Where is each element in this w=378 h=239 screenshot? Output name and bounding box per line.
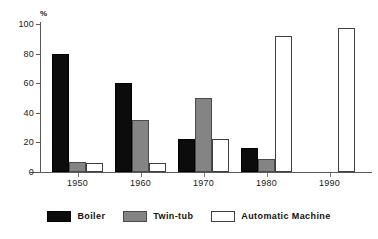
y-axis-unit-label: % xyxy=(40,9,47,18)
legend-label: Boiler xyxy=(77,211,105,221)
x-tick-label-1980: 1980 xyxy=(232,178,302,188)
y-tick-label: 60 xyxy=(4,79,34,88)
twin-tub-swatch xyxy=(123,211,147,222)
x-tick-mark xyxy=(330,173,331,177)
x-tick-mark xyxy=(141,173,142,177)
y-tick-label: 20 xyxy=(4,138,34,147)
bar-1970-boiler xyxy=(178,139,195,172)
x-tick-label-1970: 1970 xyxy=(169,178,239,188)
legend-label: Automatic Machine xyxy=(241,211,330,221)
bar-chart: % 020406080100 19501960197019801990 Boil… xyxy=(0,0,378,239)
y-tick-mark xyxy=(36,172,40,173)
y-tick-label: 100 xyxy=(4,20,34,29)
legend-item-boiler[interactable]: Boiler xyxy=(47,211,105,222)
plot-area xyxy=(40,24,370,172)
x-tick-label-1990: 1990 xyxy=(295,178,365,188)
bar-1970-automatic-machine xyxy=(212,139,229,172)
chart-legend: BoilerTwin-tubAutomatic Machine xyxy=(0,206,378,226)
x-tick-mark xyxy=(78,173,79,177)
x-tick-label-1950: 1950 xyxy=(43,178,113,188)
y-tick-label: 80 xyxy=(4,50,34,59)
x-tick-label-1960: 1960 xyxy=(106,178,176,188)
bar-1950-twin-tub xyxy=(69,162,86,172)
x-tick-mark xyxy=(204,173,205,177)
bar-1990-automatic-machine xyxy=(338,28,355,172)
boiler-swatch xyxy=(47,211,71,222)
bar-1960-boiler xyxy=(115,83,132,172)
bar-1950-boiler xyxy=(52,54,69,172)
legend-label: Twin-tub xyxy=(153,211,193,221)
bar-1960-twin-tub xyxy=(132,120,149,172)
x-tick-mark xyxy=(267,173,268,177)
legend-item-twin-tub[interactable]: Twin-tub xyxy=(123,211,193,222)
bar-1980-automatic-machine xyxy=(275,36,292,172)
bar-1960-automatic-machine xyxy=(149,163,166,172)
automatic-machine-swatch xyxy=(211,211,235,222)
bar-1980-twin-tub xyxy=(258,159,275,172)
y-tick-label: 40 xyxy=(4,109,34,118)
bar-1970-twin-tub xyxy=(195,98,212,172)
legend-item-automatic-machine[interactable]: Automatic Machine xyxy=(211,211,330,222)
y-tick-label: 0 xyxy=(4,168,34,177)
x-axis-line xyxy=(30,172,372,173)
bar-1980-boiler xyxy=(241,148,258,172)
bar-1950-automatic-machine xyxy=(86,163,103,172)
